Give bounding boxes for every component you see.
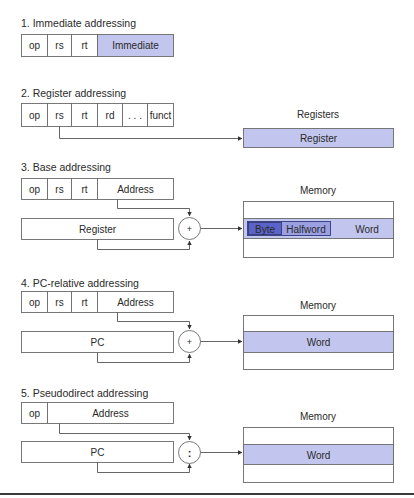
- field-label: Immediate: [112, 40, 159, 51]
- byte-label: Byte: [255, 224, 275, 235]
- field-label: . . .: [128, 110, 142, 121]
- field-label: op: [29, 408, 41, 419]
- mips-addressing-modes-diagram: 1. Immediate addressing op rs rt Immedia…: [0, 0, 414, 498]
- word-label: Word: [355, 224, 379, 235]
- field-label: Address: [117, 297, 154, 308]
- register-label: Register: [300, 133, 338, 144]
- field-label: Address: [92, 408, 129, 419]
- field-label: rs: [55, 184, 63, 195]
- pc-to-concat-arrow: [98, 463, 190, 473]
- section-title: 1. Immediate addressing: [21, 17, 136, 29]
- pc-label: PC: [91, 447, 105, 458]
- section-pc-relative-addressing: 4. PC-relative addressing op rs rt Addre…: [21, 277, 394, 370]
- rs-to-register-arrow: [60, 127, 243, 139]
- field-label: rt: [81, 297, 87, 308]
- instruction-format: op rs rt Address: [22, 179, 174, 200]
- word-label: Word: [307, 450, 331, 461]
- section-register-addressing: 2. Register addressing op rs rt rd . . .…: [21, 87, 394, 148]
- pc-to-adder-arrow: [98, 353, 190, 363]
- field-label: rt: [81, 184, 87, 195]
- instruction-format: op rs rt Address: [22, 292, 174, 313]
- adder-operator: +: [187, 224, 192, 234]
- section-title: 3. Base addressing: [21, 161, 111, 173]
- concat-operator: :: [188, 447, 192, 459]
- registers-label: Registers: [297, 109, 339, 120]
- adder-operator: +: [187, 337, 192, 347]
- field-label: Address: [117, 184, 154, 195]
- bottom-divider: [0, 493, 414, 495]
- field-label: op: [29, 297, 41, 308]
- register-to-adder-arrow: [98, 240, 190, 250]
- memory-label: Memory: [300, 411, 336, 422]
- word-label: Word: [307, 337, 331, 348]
- section-immediate-addressing: 1. Immediate addressing op rs rt Immedia…: [21, 17, 174, 57]
- field-label: rs: [55, 40, 63, 51]
- field-label: funct: [150, 110, 172, 121]
- address-to-adder-arrow: [118, 313, 190, 330]
- section-base-addressing: 3. Base addressing op rs rt Address Regi…: [21, 161, 394, 258]
- section-title: 5. Pseudodirect addressing: [21, 387, 148, 399]
- field-label: rt: [81, 110, 87, 121]
- section-pseudodirect-addressing: 5. Pseudodirect addressing op Address PC…: [21, 387, 394, 483]
- memory-label: Memory: [300, 185, 336, 196]
- field-label: op: [29, 184, 41, 195]
- instruction-format: op Address: [22, 403, 174, 424]
- base-register-label: Register: [79, 224, 117, 235]
- halfword-label: Halfword: [286, 224, 325, 235]
- memory-label: Memory: [300, 300, 336, 311]
- pc-label: PC: [91, 337, 105, 348]
- field-label: rd: [106, 110, 115, 121]
- field-label: rt: [81, 40, 87, 51]
- field-label: rs: [55, 297, 63, 308]
- section-title: 2. Register addressing: [21, 87, 126, 99]
- address-to-adder-arrow: [118, 200, 190, 217]
- field-label: op: [29, 110, 41, 121]
- field-label: op: [29, 40, 41, 51]
- section-title: 4. PC-relative addressing: [21, 277, 139, 289]
- instruction-format: op rs rt rd . . . funct: [22, 104, 174, 127]
- address-to-concat-arrow: [60, 424, 190, 441]
- field-label: rs: [55, 110, 63, 121]
- instruction-format: op rs rt Immediate: [22, 35, 174, 57]
